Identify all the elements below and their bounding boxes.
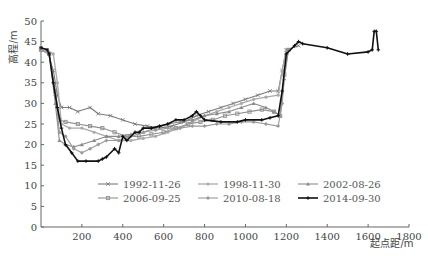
y-tick-label: 10	[24, 180, 37, 191]
series-2014-09-30	[39, 30, 380, 163]
x-tick-label: 1000	[233, 231, 258, 242]
x-axis: 20040060080010001200140016001800	[41, 224, 422, 242]
y-tick-label: 50	[24, 16, 37, 27]
legend-item: 1992-11-26	[98, 179, 181, 190]
legend-label: 2014-09-30	[323, 193, 381, 204]
x-tick-label: 200	[72, 231, 91, 242]
legend-item: 2002-08-26	[298, 179, 381, 190]
legend-label: 2002-08-26	[323, 179, 381, 190]
legend-item: 1998-11-30	[198, 179, 281, 190]
y-tick-label: 20	[24, 139, 37, 150]
y-tick-label: 5	[31, 201, 37, 212]
series-2010-08-18	[39, 48, 288, 155]
x-axis-label: 起点距/m	[370, 238, 413, 249]
legend-item: 2010-08-18	[198, 193, 281, 204]
legend-label: 2006-09-25	[123, 193, 181, 204]
series-1998-11-30	[39, 48, 288, 142]
series-1992-11-26	[39, 44, 300, 130]
legend-label: 1998-11-30	[223, 179, 281, 190]
plot-series	[39, 30, 380, 163]
y-tick-label: 25	[24, 119, 37, 130]
y-tick-label: 30	[24, 98, 37, 109]
legend-label: 2010-08-18	[223, 193, 281, 204]
cross-section-chart: 05101520253035404550 2004006008001000120…	[0, 0, 428, 265]
y-tick-label: 45	[24, 36, 37, 47]
x-tick-label: 400	[113, 231, 132, 242]
x-tick-label: 800	[195, 231, 214, 242]
x-tick-label: 1200	[274, 231, 299, 242]
y-tick-label: 40	[24, 57, 37, 68]
legend: 1992-11-261998-11-302002-08-262006-09-25…	[98, 179, 381, 204]
x-tick-label: 1400	[314, 231, 339, 242]
y-tick-label: 15	[24, 160, 37, 171]
x-tick-label: 600	[154, 231, 173, 242]
legend-item: 2014-09-30	[298, 193, 381, 204]
y-tick-label: 35	[24, 77, 37, 88]
legend-item: 2006-09-25	[98, 193, 181, 204]
legend-label: 1992-11-26	[123, 179, 181, 190]
y-tick-label: 0	[31, 222, 37, 233]
y-axis-label: 高程/m	[7, 30, 19, 63]
